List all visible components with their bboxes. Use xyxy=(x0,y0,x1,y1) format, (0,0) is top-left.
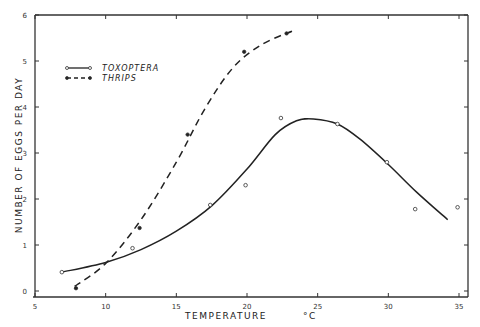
thrips-data-point xyxy=(285,32,288,35)
toxoptera-data-point xyxy=(385,160,389,164)
toxoptera-data-point xyxy=(413,207,417,211)
series-toxoptera xyxy=(60,116,459,274)
legend-swatch-marker xyxy=(66,67,69,70)
plot-frame xyxy=(33,15,468,297)
legend-swatch-marker xyxy=(66,77,69,80)
x-tick-label: 20 xyxy=(243,303,252,311)
chart-canvas: 01234565101520253035 TOXOPTERATHRIPS NUM… xyxy=(0,0,480,327)
toxoptera-curve xyxy=(62,119,448,273)
x-tick-label: 25 xyxy=(313,303,322,311)
thrips-data-point xyxy=(242,50,245,53)
x-axis-unit: °C xyxy=(303,311,317,321)
toxoptera-data-point xyxy=(279,116,283,120)
toxoptera-data-point xyxy=(244,183,248,187)
toxoptera-data-point xyxy=(336,122,340,126)
legend-label: TOXOPTERA xyxy=(102,64,159,73)
legend: TOXOPTERATHRIPS xyxy=(66,64,160,83)
x-tick-label: 30 xyxy=(384,303,393,311)
y-tick-label: 0 xyxy=(23,288,27,296)
thrips-data-point xyxy=(138,226,141,229)
legend-label: THRIPS xyxy=(102,74,137,83)
y-axis-title: NUMBER OF EGGS PER DAY xyxy=(14,77,24,233)
toxoptera-data-point xyxy=(131,246,135,250)
toxoptera-data-point xyxy=(60,270,64,274)
legend-swatch-marker xyxy=(89,77,92,80)
x-tick-label: 35 xyxy=(455,303,464,311)
legend-swatch-marker xyxy=(89,67,92,70)
toxoptera-data-point xyxy=(456,205,460,209)
thrips-data-point xyxy=(74,287,77,290)
toxoptera-data-point xyxy=(208,203,212,207)
y-tick-label: 1 xyxy=(23,242,27,250)
y-tick-label: 5 xyxy=(23,58,27,66)
x-tick-label: 15 xyxy=(172,303,181,311)
x-tick-label: 5 xyxy=(33,303,37,311)
thrips-data-point xyxy=(186,133,189,136)
x-axis-title: TEMPERATURE xyxy=(184,311,267,321)
x-tick-label: 10 xyxy=(101,303,110,311)
y-tick-label: 6 xyxy=(23,12,28,20)
